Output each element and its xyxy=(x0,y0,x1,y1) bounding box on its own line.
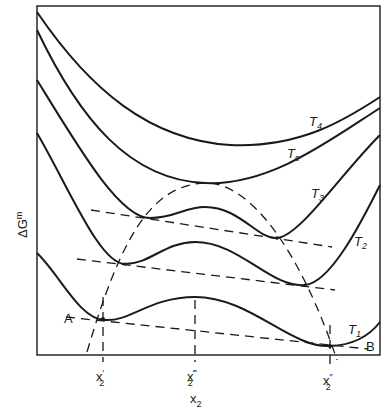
tick-label-x2-prime: x′2 xyxy=(96,368,105,388)
label-point-b: B xyxy=(366,339,375,354)
curve-t2 xyxy=(37,133,380,285)
label-t4: T4 xyxy=(309,114,322,131)
x-axis-label: x2 xyxy=(190,391,202,409)
point-a-tangent xyxy=(101,317,105,321)
label-t2: T2 xyxy=(354,234,367,251)
plot-frame xyxy=(37,6,380,355)
curve-t4 xyxy=(37,12,380,145)
label-point-a: A xyxy=(64,311,73,326)
tick-label-x2-double-prime: x″2 xyxy=(323,372,334,392)
y-axis-label: ΔGm xyxy=(14,212,30,238)
binodal-dome xyxy=(87,183,337,360)
point-b-tangent xyxy=(328,344,332,348)
t2-tangent-point-right xyxy=(304,284,307,287)
label-t3: T3 xyxy=(311,186,324,203)
curve-t3 xyxy=(37,80,380,238)
tick-label-x2-triple-prime: x‴2 xyxy=(187,368,198,388)
label-tc: Tc xyxy=(287,146,300,163)
t3-tangent-point xyxy=(275,236,279,240)
label-t1: T1 xyxy=(348,322,361,339)
t2-tangent-point-left xyxy=(124,263,127,266)
phase-diagram: T4 Tc T3 T2 T1 A B ΔGm x′2 x‴2 x″2 x2 xyxy=(0,0,387,409)
